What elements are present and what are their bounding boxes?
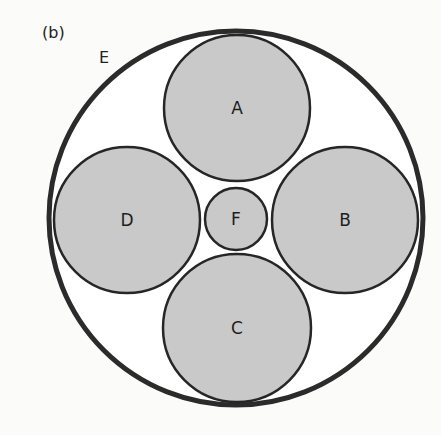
circles-diagram: A B C D F — [0, 0, 441, 435]
circle-f: F — [205, 188, 267, 250]
circle-d: D — [54, 147, 200, 293]
circle-d-label: D — [120, 210, 133, 230]
circle-a: A — [164, 35, 310, 181]
circle-a-label: A — [231, 98, 243, 118]
circle-c: C — [163, 254, 311, 402]
circle-f-label: F — [231, 209, 241, 229]
circle-c-label: C — [231, 318, 243, 338]
circle-b-label: B — [339, 210, 351, 230]
circle-b: B — [272, 147, 418, 293]
